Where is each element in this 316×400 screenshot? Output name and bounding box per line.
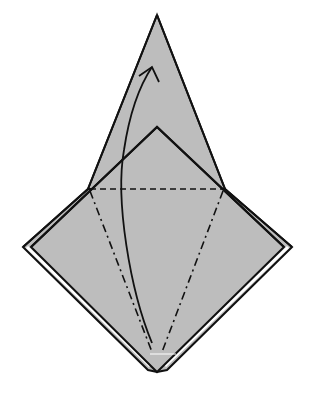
origami-diagram: [0, 0, 316, 400]
diamond-front-layer: [31, 127, 284, 372]
origami-diagram-canvas: [0, 0, 316, 400]
